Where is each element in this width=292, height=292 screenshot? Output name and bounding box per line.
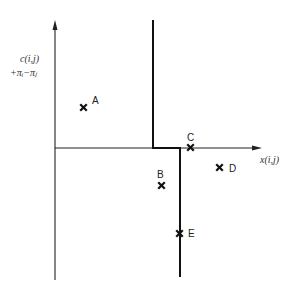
kilter-diagram: c(i,j) +πᵢ−πⱼ x(i,j) A B C D E [0,0,292,292]
x-axis-label: x(i,j) [259,154,280,166]
point-d-label: D [229,163,236,174]
point-b-label: B [157,169,164,180]
y-axis-label-line1: c(i,j) [20,53,40,65]
point-d [217,165,222,170]
point-e-label: E [188,228,195,239]
y-axis-arrow-icon [53,20,58,30]
point-b [159,183,164,188]
point-a [81,105,86,110]
kilter-curve [153,20,180,277]
y-axis-label-line2: +πᵢ−πⱼ [10,67,38,78]
point-c-label: C [187,132,194,143]
point-a-label: A [92,95,99,106]
x-axis-arrow-icon [252,146,262,151]
